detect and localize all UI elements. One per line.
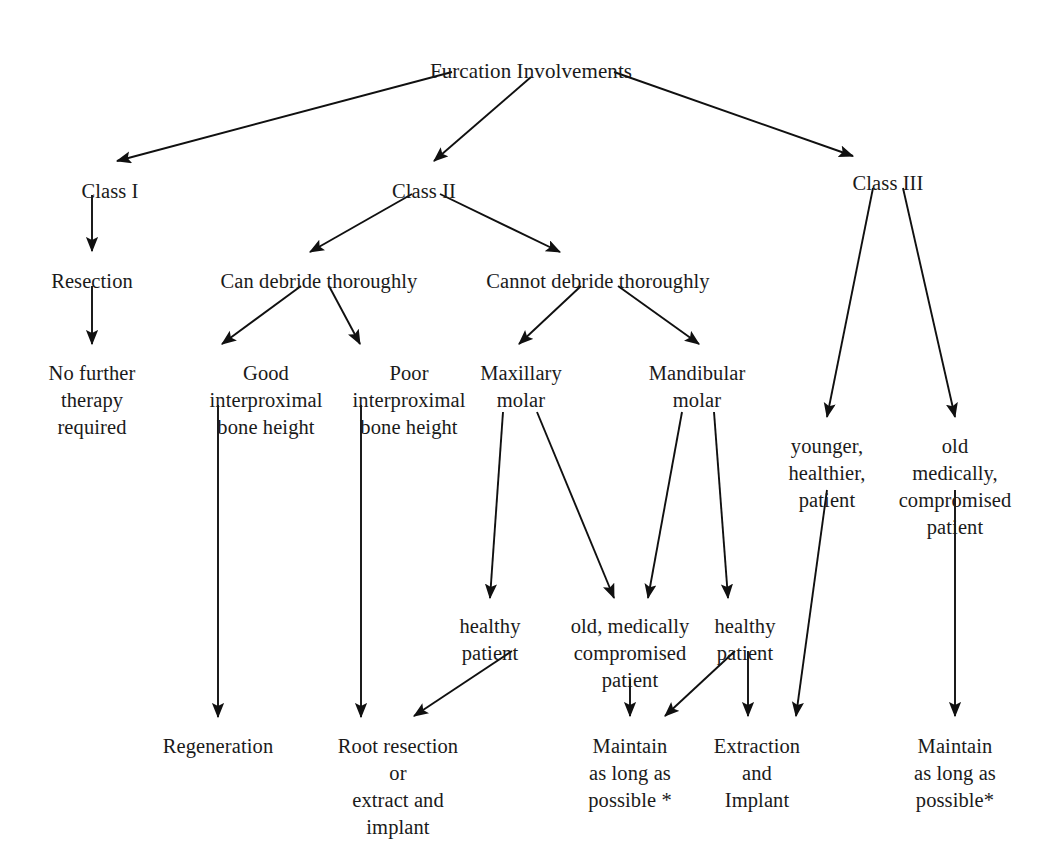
node-younger: younger, healthier, patient xyxy=(788,433,865,514)
node-resection: Resection xyxy=(51,268,133,295)
flow-arrow xyxy=(648,412,682,598)
node-extraction: Extraction and Implant xyxy=(714,733,800,814)
node-class2: Class II xyxy=(392,178,456,205)
flow-arrow xyxy=(903,188,955,417)
node-old-compromised: old, medically compromised patient xyxy=(571,613,690,694)
node-class3: Class III xyxy=(853,170,924,197)
flow-arrow xyxy=(490,412,503,598)
flow-arrow xyxy=(796,490,827,716)
flow-arrow xyxy=(434,77,531,161)
node-mandibular: Mandibular molar xyxy=(649,360,746,414)
flow-arrow xyxy=(827,188,873,417)
flow-arrow xyxy=(537,412,614,598)
node-regeneration: Regeneration xyxy=(163,733,274,760)
node-maintain-mid: Maintain as long as possible * xyxy=(588,733,672,814)
node-old-medically: old medically, compromised patient xyxy=(899,433,1012,541)
node-maxillary: Maxillary molar xyxy=(480,360,562,414)
node-healthy-left: healthy patient xyxy=(459,613,520,667)
flow-arrow xyxy=(117,72,452,161)
flow-arrow xyxy=(614,72,853,156)
flow-arrow xyxy=(714,412,728,598)
node-can-debride: Can debride thoroughly xyxy=(221,268,418,295)
node-poor-bone: Poor interproximal bone height xyxy=(353,360,466,441)
node-class1: Class I xyxy=(81,178,138,205)
node-healthy-right: healthy patient xyxy=(714,613,775,667)
flowchart-canvas: Furcation InvolvementsClass IClass IICla… xyxy=(0,0,1063,861)
node-root-resection: Root resection or extract and implant xyxy=(338,733,458,841)
node-cannot-debride: Cannot debride thoroughly xyxy=(486,268,709,295)
node-good-bone: Good interproximal bone height xyxy=(210,360,323,441)
node-maintain-right: Maintain as long as possible* xyxy=(914,733,996,814)
node-no-further: No further therapy required xyxy=(49,360,136,441)
node-root: Furcation Involvements xyxy=(430,58,632,86)
flow-arrow xyxy=(440,194,560,252)
flowchart-edges xyxy=(0,0,1063,861)
